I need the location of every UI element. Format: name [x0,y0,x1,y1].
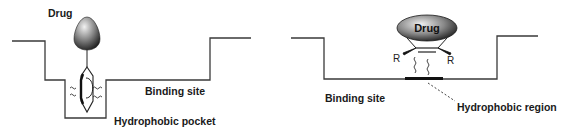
receptor-surface-left [12,38,251,118]
right-panel: Drug R R Binding site Hydrophobic region [291,15,557,113]
left-panel: Drug Binding site Hydrophobic pocket [12,7,251,127]
hydrophobic-interaction-icon [414,57,429,75]
aromatic-ring-icon [81,67,93,112]
drug-molecule-drop [74,17,100,50]
diagram-canvas: Drug Binding site Hydrophobic pocket Dru… [0,0,567,135]
region-leader-line [428,83,455,101]
hydrophobic-region-label: Hydrophobic region [457,101,557,113]
substituent-r-right: R [447,55,454,66]
drug-label-left: Drug [48,7,73,19]
hydrophobic-pocket-label: Hydrophobic pocket [114,115,216,127]
substituent-r-left: R [393,53,400,64]
binding-site-label-right: Binding site [325,92,385,104]
hydrophobic-region-bar [405,77,443,80]
binding-site-label-left: Binding site [145,85,205,97]
drug-label-right: Drug [414,22,440,34]
